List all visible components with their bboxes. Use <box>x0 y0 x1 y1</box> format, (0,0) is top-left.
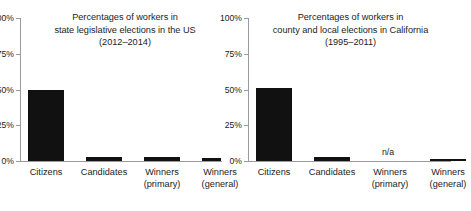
x-tick-label-candidates: Candidates <box>70 166 138 178</box>
x-tick-label-winners-general-right: Winners (general) <box>416 166 471 191</box>
bar-citizens <box>28 90 64 162</box>
y-tick-mark-25-right <box>244 125 248 126</box>
bar-candidates <box>86 157 122 161</box>
x-tick-label-citizens-right: Citizens <box>242 166 306 178</box>
x-tick-label-candidates-line1: Candidates <box>81 167 127 177</box>
y-tick-label-25-right: 25% <box>218 121 242 130</box>
bar-winners-primary <box>144 157 180 161</box>
y-axis-line-right <box>248 18 249 162</box>
bar-winners-general-right <box>430 159 466 161</box>
x-tick-label-candidates-right: Candidates <box>298 166 366 178</box>
na-annotation-winners-primary: n/a <box>360 148 416 157</box>
x-tick-label-candidates-right-line1: Candidates <box>309 167 355 177</box>
bar-citizens-right <box>256 88 292 161</box>
y-tick-mark-50 <box>16 90 20 91</box>
chart-title-left: Percentages of workers in state legislat… <box>0 11 222 49</box>
x-tick-label-winners-primary-right: Winners (primary) <box>358 166 422 191</box>
y-tick-label-100-right: 100% <box>218 14 242 23</box>
x-tick-label-winners-primary-right-line1: Winners <box>373 167 407 177</box>
chart-title-left-line3: (2012–2014) <box>28 36 222 49</box>
y-tick-label-100: 100% <box>0 14 14 23</box>
chart-panel-right: Percentages of workers in county and loc… <box>226 0 453 211</box>
y-tick-mark-75-right <box>244 54 248 55</box>
chart-title-right-line3: (1995–2011) <box>252 36 449 49</box>
y-tick-label-0: 0% <box>0 157 14 166</box>
x-axis-line-left <box>20 161 222 162</box>
chart-title-right-line1: Percentages of workers in <box>252 11 449 24</box>
y-tick-mark-75 <box>16 54 20 55</box>
chart-title-left-line2: state legislative elections in the US <box>28 24 222 37</box>
x-tick-label-winners-primary-right-line2: (primary) <box>358 178 422 190</box>
chart-title-left-line1: Percentages of workers in <box>28 11 222 24</box>
x-tick-label-citizens: Citizens <box>14 166 78 178</box>
x-tick-label-citizens-line1: Citizens <box>30 167 63 177</box>
y-tick-label-50: 50% <box>0 86 14 95</box>
bar-candidates-right <box>314 157 350 161</box>
y-tick-label-0-right: 0% <box>218 157 242 166</box>
x-tick-label-winners-primary-line2: (primary) <box>130 178 194 190</box>
y-tick-label-25: 25% <box>0 121 14 130</box>
x-tick-label-citizens-right-line1: Citizens <box>258 167 291 177</box>
y-tick-mark-100-right <box>244 18 248 19</box>
y-tick-mark-0-right <box>244 161 248 162</box>
y-tick-label-75: 75% <box>0 50 14 59</box>
y-axis-line-left <box>20 18 21 162</box>
x-tick-label-winners-general-right-line2: (general) <box>416 178 471 190</box>
y-tick-label-75-right: 75% <box>218 50 242 59</box>
y-tick-mark-100 <box>16 18 20 19</box>
y-tick-label-50-right: 50% <box>218 86 242 95</box>
chart-title-right-line2: county and local elections in California <box>252 24 449 37</box>
x-tick-label-winners-primary: Winners (primary) <box>130 166 194 191</box>
y-tick-mark-25 <box>16 125 20 126</box>
x-tick-label-winners-primary-line1: Winners <box>145 167 179 177</box>
x-tick-label-winners-general-right-line1: Winners <box>431 167 465 177</box>
chart-panel-left: Percentages of workers in state legislat… <box>0 0 226 211</box>
chart-title-right: Percentages of workers in county and loc… <box>226 11 449 49</box>
x-axis-line-right <box>248 161 451 162</box>
y-tick-mark-0 <box>16 161 20 162</box>
y-tick-mark-50-right <box>244 90 248 91</box>
